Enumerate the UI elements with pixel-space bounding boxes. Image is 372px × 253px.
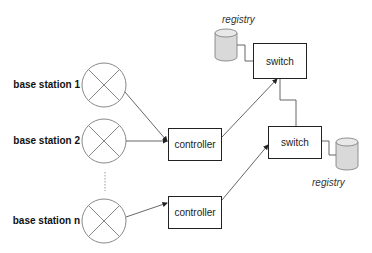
edge-controller2-switch2 xyxy=(222,145,268,200)
switch-1-node: switch xyxy=(253,43,307,79)
controller-2-label: controller xyxy=(174,207,215,218)
switch-2-node: switch xyxy=(268,126,322,159)
edge-registry2-switch2 xyxy=(322,141,336,155)
base-station-n-icon xyxy=(82,199,126,243)
registry-2-icon xyxy=(336,138,358,170)
controller-1-node: controller xyxy=(168,128,222,161)
edge-registry1-switch1 xyxy=(237,45,253,61)
controller-1-label: controller xyxy=(174,139,215,150)
controller-2-node: controller xyxy=(168,196,222,229)
registry-1-label: registry xyxy=(222,14,255,25)
edge-bs1-controller1 xyxy=(125,92,167,141)
base-station-2-icon xyxy=(82,119,126,163)
base-station-n-label: base station n xyxy=(0,215,80,226)
base-station-1-icon xyxy=(82,63,126,107)
edge-bsn-controller2 xyxy=(126,203,167,217)
switch-2-label: switch xyxy=(281,137,309,148)
registry-2-label: registry xyxy=(312,177,345,188)
base-station-1-label: base station 1 xyxy=(0,79,80,90)
base-station-2-label: base station 2 xyxy=(0,135,80,146)
edge-switch2-switch1 xyxy=(280,79,296,126)
registry-1-icon xyxy=(215,29,237,61)
switch-1-label: switch xyxy=(266,56,294,67)
